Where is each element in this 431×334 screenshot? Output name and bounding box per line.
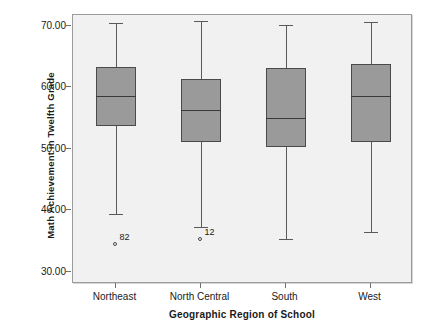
x-axis-tick-mark (200, 283, 201, 288)
y-axis-tick-mark (66, 25, 71, 26)
box-plot-group (73, 15, 411, 282)
y-axis-tick-label: 70.00 (20, 20, 66, 31)
y-axis-tick-mark (66, 209, 71, 210)
upper-whisker (371, 22, 372, 64)
y-axis-tick-mark (66, 86, 71, 87)
lower-whisker-cap (364, 232, 378, 233)
y-axis-tick-mark (66, 148, 71, 149)
y-axis-tick-label: 30.00 (20, 265, 66, 276)
x-axis-tick-label: Northeast (93, 291, 136, 302)
lower-whisker (371, 142, 372, 232)
median-line (351, 96, 391, 97)
x-axis-tick-mark (285, 283, 286, 288)
x-axis-tick-mark (370, 283, 371, 288)
y-axis-tick-labels: 30.0040.0050.0060.0070.00 (16, 0, 66, 334)
box-plot-figure: Math Achievement in Twelfth Grade 30.004… (0, 0, 431, 334)
x-axis-tick-label: North Central (170, 291, 229, 302)
box-iqr-rect (351, 64, 391, 142)
y-axis-tick-label: 60.00 (20, 81, 66, 92)
x-axis-tick-mark (115, 283, 116, 288)
y-axis-tick-label: 50.00 (20, 142, 66, 153)
x-axis-tick-label: South (271, 291, 297, 302)
plot-inner: 8212 (73, 15, 411, 282)
plot-area: 8212 (72, 14, 412, 283)
y-axis-tick-mark (66, 271, 71, 272)
upper-whisker-cap (364, 22, 378, 23)
y-axis-tick-label: 40.00 (20, 204, 66, 215)
x-axis-title: Geographic Region of School (72, 309, 412, 320)
x-axis-tick-label: West (358, 291, 381, 302)
